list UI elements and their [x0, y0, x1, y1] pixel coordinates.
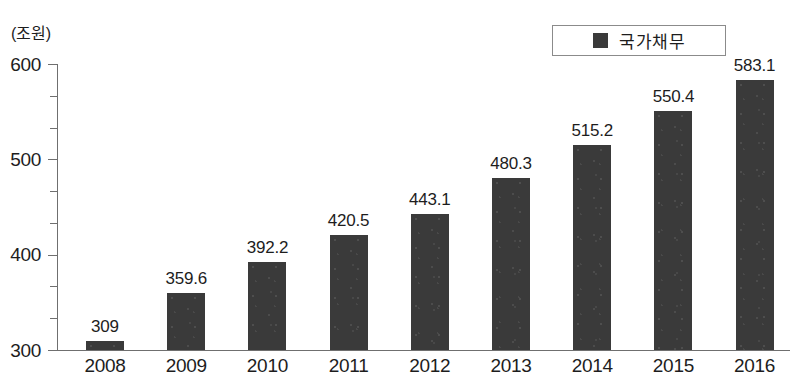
- plot-area: 300400500600 309359.6392.2420.5443.1480.…: [57, 64, 790, 350]
- y-axis-minor-tick: [50, 191, 58, 192]
- x-axis-tick-label: 2012: [389, 355, 470, 377]
- bar-group: 515.2: [573, 121, 611, 350]
- legend-swatch-icon: [593, 33, 608, 48]
- bar-group: 583.1: [736, 56, 774, 350]
- y-axis-tick-label: 300: [10, 339, 41, 361]
- x-axis-tick-label: 2010: [227, 355, 308, 377]
- national-debt-bar-chart: (조원) 국가채무 300400500600 309359.6392.2420.…: [0, 0, 796, 388]
- y-axis-tick-label: 400: [10, 244, 41, 266]
- bar-group: 359.6: [167, 269, 205, 350]
- bar-value-label: 515.2: [571, 121, 613, 141]
- bar: [411, 214, 449, 350]
- y-axis-line: [57, 64, 58, 350]
- y-axis-minor-tick: [50, 318, 58, 319]
- x-axis-line: [57, 350, 790, 351]
- bar-group: 309: [86, 317, 124, 350]
- bar-value-label: 583.1: [734, 56, 776, 76]
- bar-group: 392.2: [248, 238, 286, 350]
- y-axis-major-tick: 400: [48, 255, 58, 256]
- x-axis-tick-label: 2016: [714, 355, 795, 377]
- bar-group: 550.4: [654, 87, 692, 350]
- bar: [248, 262, 286, 350]
- x-axis-tick-label: 2014: [552, 355, 633, 377]
- bar: [86, 341, 124, 350]
- bar: [654, 111, 692, 350]
- bar-value-label: 443.1: [409, 190, 451, 210]
- x-axis-tick-label: 2009: [146, 355, 227, 377]
- x-axis-tick-label: 2011: [308, 355, 389, 377]
- y-axis-minor-tick: [50, 286, 58, 287]
- bar: [492, 178, 530, 350]
- y-axis-tick-label: 600: [10, 53, 41, 75]
- bar-value-label: 309: [91, 317, 119, 337]
- y-axis-minor-tick: [50, 128, 58, 129]
- x-axis-tick-label: 2015: [633, 355, 714, 377]
- y-axis-major-tick: 600: [48, 64, 58, 65]
- bar: [573, 145, 611, 350]
- bar-group: 480.3: [492, 154, 530, 350]
- bar: [167, 293, 205, 350]
- y-axis-major-tick: 500: [48, 159, 58, 160]
- legend-series-label: 국가채무: [619, 28, 685, 53]
- bar-value-label: 550.4: [653, 87, 695, 107]
- bar: [736, 80, 774, 350]
- y-axis-unit-label: (조원): [11, 20, 51, 44]
- y-axis-tick-label: 500: [10, 148, 41, 170]
- bar-group: 420.5: [330, 211, 368, 350]
- y-axis-major-tick: 300: [48, 350, 58, 351]
- x-axis-tick-label: 2008: [64, 355, 145, 377]
- bar-value-label: 420.5: [328, 211, 370, 231]
- bar-value-label: 392.2: [247, 238, 289, 258]
- x-axis-tick-label: 2013: [470, 355, 551, 377]
- bar-value-label: 480.3: [490, 154, 532, 174]
- bar: [330, 235, 368, 350]
- chart-legend: 국가채무: [552, 25, 726, 56]
- y-axis-minor-tick: [50, 96, 58, 97]
- y-axis-minor-tick: [50, 223, 58, 224]
- bar-value-label: 359.6: [165, 269, 207, 289]
- bar-group: 443.1: [411, 190, 449, 350]
